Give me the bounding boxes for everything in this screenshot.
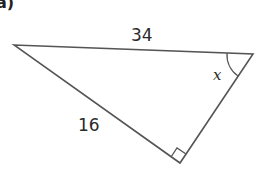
side-left-label: 16 [78,115,100,135]
triangle-diagram: a) 34 x 16 [0,0,258,170]
angle-x-label: x [213,66,222,84]
side-top-label: 34 [131,25,153,45]
right-angle-marker [171,148,186,157]
triangle [14,45,253,163]
part-label: a) [0,0,14,12]
angle-arc [227,53,238,76]
